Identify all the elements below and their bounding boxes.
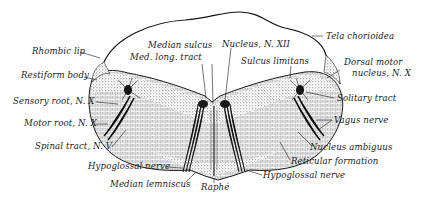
label-raphe: Raphé: [201, 183, 229, 192]
label-rhombic-lip: Rhombic lip: [32, 47, 85, 56]
label-solitary-tract: Solitary tract: [337, 94, 396, 103]
label-median-lemniscus: Median lemniscus: [110, 180, 191, 189]
label-motor-root-x: Motor root, N. X: [24, 119, 97, 128]
label-vagus-nerve: Vagus nerve: [334, 116, 389, 125]
label-nucleus-xii: Nucleus, N. XII: [222, 40, 290, 49]
label-dorsal-motor-line2: nucleus, N. X: [352, 69, 411, 78]
label-nucleus-ambiguus: Nucleus ambiguus: [310, 143, 392, 152]
label-sensory-root-x: Sensory root, N. X: [13, 97, 95, 106]
label-spinal-tract-v: Spinal tract, N. V: [35, 142, 112, 151]
nucleus-xii-right: [220, 100, 230, 108]
label-hypoglossal-nerve-right: Hypoglossal nerve: [263, 171, 345, 180]
label-median-sulcus: Median sulcus: [148, 41, 212, 50]
label-reticular-formation: Reticular formation: [291, 157, 378, 166]
label-restiform-body: Restiform body: [21, 71, 89, 80]
label-med-long-tract: Med. long. tract: [130, 53, 202, 62]
label-dorsal-motor-line1: Dorsal motor: [344, 58, 402, 67]
label-tela-chorioidea: Tela chorioidea: [326, 32, 394, 41]
nucleus-xii-left: [198, 100, 208, 108]
label-sulcus-limitans: Sulcus limitans: [241, 57, 309, 66]
label-hypoglossal-nerve-left: Hypoglossal nerve: [88, 162, 170, 171]
medulla-section-figure: Rhombic lip Restiform body Sensory root,…: [0, 0, 428, 199]
